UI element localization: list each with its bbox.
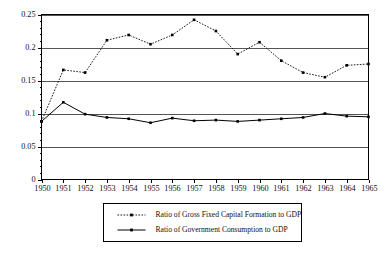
data-point	[302, 71, 305, 74]
series-2	[40, 101, 370, 124]
y-axis-ticks	[38, 16, 42, 181]
data-point	[236, 120, 239, 123]
data-point	[127, 117, 130, 120]
data-point	[367, 116, 370, 119]
series-1	[40, 18, 370, 122]
y-tick-label: 0.25	[21, 10, 35, 19]
x-tick-label: 1963	[317, 184, 333, 193]
legend-label: Ratio of Gross Fixed Capital Formation t…	[156, 210, 302, 219]
data-point	[84, 71, 87, 74]
x-axis-ticks	[43, 180, 370, 184]
plot-frame	[42, 15, 369, 180]
y-tick-label: 0.1	[25, 109, 35, 118]
data-point	[345, 115, 348, 118]
y-tick-label: 0.05	[21, 142, 35, 151]
x-tick-label: 1951	[55, 184, 71, 193]
data-point	[302, 116, 305, 119]
data-point	[40, 120, 43, 123]
x-tick-label: 1964	[339, 184, 355, 193]
legend-swatch-marker	[130, 214, 133, 217]
y-tick-label: 0.15	[21, 76, 35, 85]
x-tick-label: 1957	[186, 184, 202, 193]
y-tick-label: 0	[31, 175, 35, 184]
data-point	[258, 41, 261, 44]
series-line	[42, 102, 369, 122]
data-point	[280, 59, 283, 62]
x-tick-label: 1960	[252, 184, 268, 193]
x-tick-label: 1955	[143, 184, 159, 193]
data-series-group	[40, 18, 370, 124]
gridlines-group	[42, 16, 369, 148]
data-point	[258, 119, 261, 122]
data-point	[324, 76, 327, 79]
data-point	[193, 119, 196, 122]
plot-border	[42, 15, 369, 180]
data-point	[280, 117, 283, 120]
data-point	[127, 34, 130, 37]
data-point	[62, 69, 65, 72]
data-point	[84, 113, 87, 116]
x-axis-tick-labels: 1950195119521953195419551956195719581959…	[34, 184, 377, 193]
x-tick-label: 1958	[208, 184, 224, 193]
y-axis-tick-labels: 00.050.10.150.20.25	[21, 10, 35, 184]
data-point	[149, 121, 152, 124]
data-point	[62, 101, 65, 104]
data-point	[215, 30, 218, 33]
data-point	[106, 39, 109, 42]
data-point	[106, 116, 109, 119]
x-tick-label: 1965	[361, 184, 377, 193]
chart-canvas: 00.050.10.150.20.25 19501951195219531954…	[0, 0, 389, 257]
data-point	[236, 53, 239, 56]
series-line	[42, 20, 369, 122]
data-point	[367, 63, 370, 66]
data-point	[171, 34, 174, 37]
legend-label: Ratio of Government Consumption to GDP	[156, 225, 288, 234]
data-point	[171, 117, 174, 120]
x-tick-label: 1956	[164, 184, 180, 193]
legend-swatch-marker	[130, 229, 133, 232]
data-point	[193, 18, 196, 21]
x-tick-label: 1961	[273, 184, 289, 193]
data-point	[149, 43, 152, 46]
y-tick-label: 0.2	[25, 43, 35, 52]
chart-legend: Ratio of Gross Fixed Capital Formation t…	[104, 204, 302, 242]
x-tick-label: 1953	[99, 184, 115, 193]
data-point	[215, 119, 218, 122]
x-tick-label: 1954	[121, 184, 137, 193]
x-tick-label: 1952	[77, 184, 93, 193]
x-tick-label: 1950	[34, 184, 50, 193]
line-chart: 00.050.10.150.20.25 19501951195219531954…	[0, 0, 389, 257]
data-point	[345, 64, 348, 67]
x-tick-label: 1962	[295, 184, 311, 193]
x-tick-label: 1959	[230, 184, 246, 193]
data-point	[324, 112, 327, 115]
